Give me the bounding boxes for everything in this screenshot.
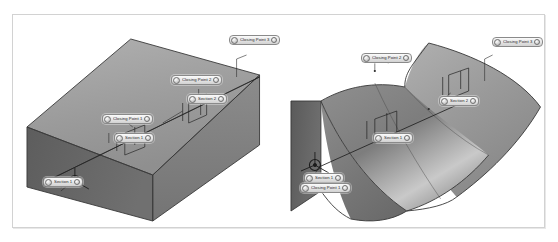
callout-pin-icon[interactable]: [404, 135, 410, 141]
callout-handle-icon: [375, 135, 382, 142]
callout-pin-icon[interactable]: [145, 135, 151, 141]
callout-handle-icon: [104, 116, 111, 123]
callout-pin-icon[interactable]: [403, 55, 409, 61]
callout-handle-icon: [302, 185, 309, 192]
callout-r-section-0[interactable]: Section 1: [304, 173, 344, 183]
callout-pin-icon[interactable]: [534, 39, 540, 45]
callout-handle-icon: [173, 77, 180, 84]
callout-label: Section 1: [383, 134, 403, 142]
callout-label: Closing Point 2: [371, 54, 402, 62]
callout-l-section-1[interactable]: Section 1: [114, 133, 154, 143]
callout-label: Section 2: [197, 95, 217, 103]
callout-handle-icon: [441, 98, 448, 105]
callout-pin-icon[interactable]: [335, 175, 341, 181]
callout-pin-icon[interactable]: [342, 185, 348, 191]
callout-l-closing-point-3[interactable]: Closing Point 3: [229, 35, 280, 45]
callout-label: Section 1: [53, 178, 73, 186]
callout-label: Section 2: [449, 97, 469, 105]
callout-r-closing-point-3[interactable]: Closing Point 3: [492, 37, 543, 47]
callout-label: Closing Point 3: [502, 38, 533, 46]
callout-handle-icon: [116, 135, 123, 142]
callout-label: Closing Point 1: [112, 115, 143, 123]
callout-label: Closing Point 1: [310, 184, 341, 192]
figure-frame: Closing Point 3Closing Point 2Section 2C…: [12, 14, 545, 228]
callout-pin-icon[interactable]: [218, 96, 224, 102]
callout-label: Section 1: [314, 174, 334, 182]
callout-pin-icon[interactable]: [74, 179, 80, 185]
callout-pin-icon[interactable]: [470, 98, 476, 104]
callout-pin-icon[interactable]: [271, 37, 277, 43]
callout-label: Closing Point 2: [181, 76, 212, 84]
callout-l-section-origin[interactable]: Section 1: [43, 177, 83, 187]
callout-handle-icon: [189, 96, 196, 103]
callout-pin-icon[interactable]: [213, 77, 219, 83]
callout-l-section-2[interactable]: Section 2: [187, 94, 227, 104]
callout-handle-icon: [45, 179, 52, 186]
callout-r-section-1[interactable]: Section 1: [373, 133, 413, 143]
callout-handle-icon: [494, 39, 501, 46]
callout-label: Closing Point 3: [239, 36, 270, 44]
callout-l-closing-point-2[interactable]: Closing Point 2: [171, 75, 222, 85]
callout-handle-icon: [306, 175, 313, 182]
callout-pin-icon[interactable]: [144, 116, 150, 122]
callout-r-closing-point-1[interactable]: Closing Point 1: [300, 183, 351, 193]
callout-label: Section 1: [124, 134, 144, 142]
callout-r-closing-point-2[interactable]: Closing Point 2: [361, 53, 412, 63]
callout-handle-icon: [231, 37, 238, 44]
callout-r-section-2[interactable]: Section 2: [439, 96, 479, 106]
callout-handle-icon: [363, 55, 370, 62]
callout-l-closing-point-1[interactable]: Closing Point 1: [102, 114, 153, 124]
